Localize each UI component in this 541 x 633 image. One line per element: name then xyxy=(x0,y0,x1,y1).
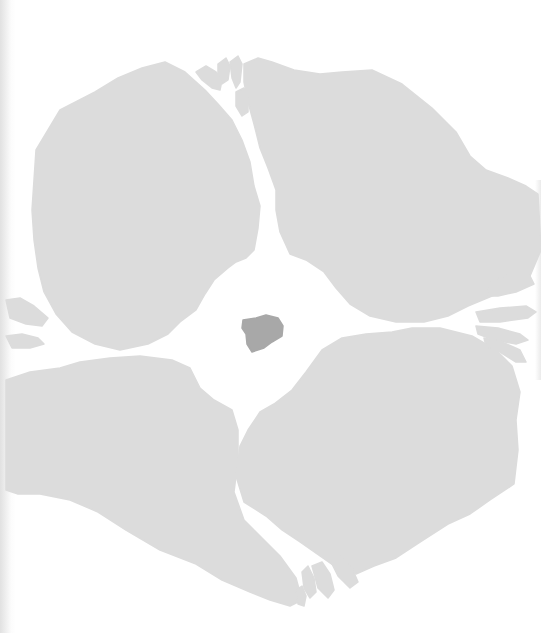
illustration-canvas xyxy=(0,0,541,633)
top-delta-islet-4 xyxy=(236,88,248,116)
left-delta-islet-1 xyxy=(6,298,48,326)
core-layer xyxy=(242,315,283,352)
central-core-blob xyxy=(242,315,283,352)
top-delta-islet-3 xyxy=(230,56,242,88)
top-delta-islet-2 xyxy=(218,58,230,84)
lower-right-landmass xyxy=(236,328,520,574)
left-delta-islet-2 xyxy=(6,334,44,348)
landmass-ring-illustration xyxy=(0,0,541,633)
right-delta-islet-2 xyxy=(476,306,536,322)
upper-left-landmass xyxy=(32,62,260,350)
